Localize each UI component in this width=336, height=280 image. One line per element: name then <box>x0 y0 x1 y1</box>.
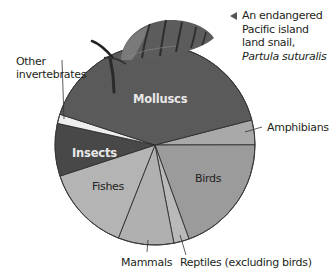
snail-caption: An endangered Pacific island land snail,… <box>242 9 326 63</box>
caption-pointer-icon <box>230 12 237 20</box>
caption-species-name: Partula suturalis <box>242 50 326 64</box>
label-reptiles: Reptiles (excluding birds) <box>180 256 312 269</box>
slice-label-insects: Insects <box>72 146 117 160</box>
slice-label-fishes: Fishes <box>92 180 124 193</box>
label-amphibians: Amphibians <box>267 121 329 134</box>
label-other-line1: Other <box>16 55 86 68</box>
caption-line2: Pacific island <box>242 23 326 37</box>
label-other-invertebrates: Other invertebrates <box>16 55 86 81</box>
label-other-line2: invertebrates <box>16 68 86 81</box>
caption-line1: An endangered <box>242 9 326 23</box>
label-mammals: Mammals <box>121 256 172 269</box>
slice-label-birds: Birds <box>195 172 221 185</box>
caption-line3: land snail, <box>242 36 326 50</box>
slice-label-molluscs: Molluscs <box>133 92 187 106</box>
